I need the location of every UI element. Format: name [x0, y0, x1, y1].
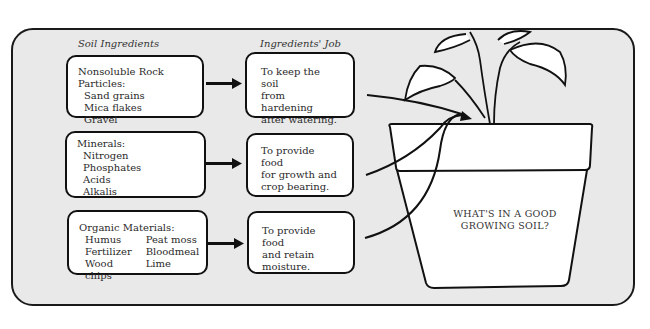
ingredient-box-minerals: Minerals: Nitrogen Phosphates Acids Alka…: [65, 131, 206, 198]
ingredient-box-rock-particles: Nonsoluble Rock Particles: Sand grains M…: [66, 55, 204, 118]
right-arrow-icon: [206, 78, 244, 249]
job-box-prevent-hardening: To keep the soil from hardening after wa…: [245, 52, 355, 118]
ingredients-job-header: Ingredients' Job: [260, 38, 341, 49]
job-box-provide-food-growth: To provide food for growth and crop bear…: [246, 133, 354, 197]
ingredient-box-organic: Organic Materials: Humus Fertilizer Wood…: [67, 210, 208, 275]
job-box-retain-moisture: To provide food and retain moisture.: [247, 211, 355, 274]
plant-icon: [405, 31, 566, 124]
soil-ingredients-header: Soil Ingredients: [78, 38, 159, 49]
pot-caption: WHAT'S IN A GOOD GROWING SOIL?: [445, 208, 565, 232]
